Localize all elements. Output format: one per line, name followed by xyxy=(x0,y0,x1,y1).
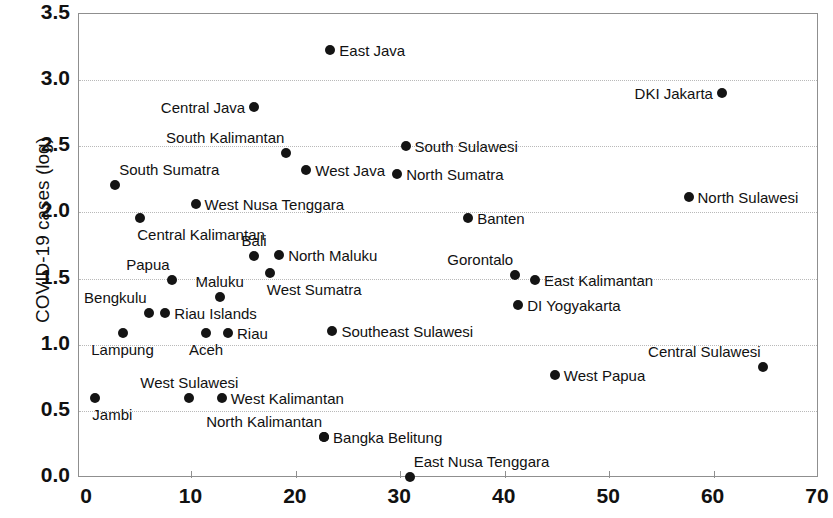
data-point-label: West Kalimantan xyxy=(231,390,344,405)
y-tick-label: 0.5 xyxy=(14,397,70,421)
data-point-label: North Sumatra xyxy=(406,167,504,182)
data-point xyxy=(249,251,259,261)
scatter-chart-figure: COVID-19 cases (log) 0.00.51.01.52.02.53… xyxy=(0,0,833,518)
x-tick-label: 50 xyxy=(578,484,638,508)
data-point-label: DI Yogyakarta xyxy=(527,298,620,313)
y-tick-label: 3.0 xyxy=(14,66,70,90)
data-point xyxy=(530,275,540,285)
x-tick-mark xyxy=(609,471,610,478)
data-point xyxy=(223,328,233,338)
x-tick-mark xyxy=(191,471,192,478)
data-point-label: South Sumatra xyxy=(119,161,219,176)
data-point xyxy=(167,275,177,285)
data-point xyxy=(110,180,120,190)
data-point-label: Banten xyxy=(477,210,525,225)
y-tick-label: 1.0 xyxy=(14,331,70,355)
data-point-label: South Kalimantan xyxy=(166,129,284,144)
y-tick-label: 2.0 xyxy=(14,198,70,222)
data-point xyxy=(265,268,275,278)
data-point xyxy=(144,308,154,318)
data-point-label: Bengkulu xyxy=(84,289,147,304)
x-tick-label: 30 xyxy=(369,484,429,508)
data-point-label: DKI Jakarta xyxy=(635,86,713,101)
data-point xyxy=(513,300,523,310)
x-tick-label: 40 xyxy=(474,484,534,508)
data-point-label: Lampung xyxy=(91,341,154,356)
data-point-label: West Java xyxy=(315,163,385,178)
data-point-label: Maluku xyxy=(195,274,243,289)
data-point-label: Central Sulawesi xyxy=(648,344,761,359)
x-tick-mark xyxy=(714,471,715,478)
data-point xyxy=(274,250,284,260)
data-point xyxy=(135,213,145,223)
data-point-label: West Sumatra xyxy=(267,282,362,297)
data-point xyxy=(215,292,225,302)
data-point-label: North Sulawesi xyxy=(698,189,799,204)
data-point xyxy=(325,45,335,55)
data-point-label: Riau Islands xyxy=(174,305,257,320)
x-tick-label: 20 xyxy=(265,484,325,508)
data-point xyxy=(191,199,201,209)
data-point-label: Aceh xyxy=(189,341,223,356)
data-point xyxy=(319,432,329,442)
data-point xyxy=(90,393,100,403)
gridline-y xyxy=(79,411,817,412)
data-point-label: Papua xyxy=(126,256,169,271)
data-point xyxy=(392,169,402,179)
data-point xyxy=(550,370,560,380)
y-tick-label: 1.5 xyxy=(14,265,70,289)
data-point xyxy=(118,328,128,338)
x-tick-mark xyxy=(505,471,506,478)
data-point-label: East Java xyxy=(339,42,405,57)
x-tick-label: 70 xyxy=(787,484,833,508)
data-point-label: Riau xyxy=(237,325,268,340)
data-point-label: North Kalimantan xyxy=(206,414,322,429)
data-point-label: West Sulawesi xyxy=(140,374,238,389)
data-point-label: Jambi xyxy=(92,406,132,421)
data-point-label: North Maluku xyxy=(288,247,377,262)
data-point xyxy=(405,472,415,482)
data-point-label: East Kalimantan xyxy=(544,272,653,287)
gridline-y xyxy=(79,279,817,280)
data-point xyxy=(758,362,768,372)
plot-area: East JavaDKI JakartaCentral JavaSouth Su… xyxy=(78,13,818,477)
data-point xyxy=(510,270,520,280)
data-point xyxy=(217,393,227,403)
data-point xyxy=(160,308,170,318)
data-point xyxy=(201,328,211,338)
data-point-label: West Papua xyxy=(564,368,645,383)
data-point xyxy=(463,213,473,223)
data-point xyxy=(184,393,194,403)
data-point-label: Bali xyxy=(242,233,267,248)
data-point xyxy=(249,102,259,112)
data-point-label: West Nusa Tenggara xyxy=(205,197,345,212)
data-point xyxy=(401,141,411,151)
gridline-y xyxy=(79,212,817,213)
data-point xyxy=(684,192,694,202)
data-point xyxy=(717,88,727,98)
data-point-label: Bangka Belitung xyxy=(333,430,442,445)
x-tick-label: 60 xyxy=(683,484,743,508)
data-point xyxy=(301,165,311,175)
y-tick-label: 3.5 xyxy=(14,0,70,24)
x-tick-mark xyxy=(296,471,297,478)
data-point xyxy=(327,326,337,336)
data-point-label: Central Java xyxy=(161,99,245,114)
y-tick-label: 2.5 xyxy=(14,132,70,156)
x-tick-mark xyxy=(400,471,401,478)
data-point xyxy=(281,148,291,158)
data-point-label: Southeast Sulawesi xyxy=(341,324,473,339)
x-tick-label: 0 xyxy=(56,484,116,508)
y-axis-tick-labels: 0.00.51.01.52.02.53.03.5 xyxy=(0,0,70,518)
data-point-label: Gorontalo xyxy=(447,251,513,266)
data-point-label: East Nusa Tenggara xyxy=(414,454,550,469)
data-point-label: South Sulawesi xyxy=(415,139,518,154)
x-tick-label: 10 xyxy=(160,484,220,508)
gridline-y xyxy=(79,80,817,81)
